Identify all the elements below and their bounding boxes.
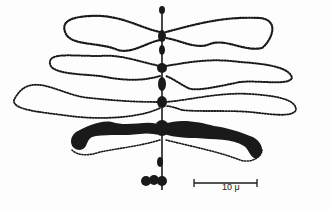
loop-top-right	[166, 18, 272, 49]
loop-low-left	[14, 85, 160, 118]
chromosome-drawing	[0, 0, 332, 210]
loop-top-left	[64, 16, 160, 51]
loop-mid-right	[166, 60, 292, 89]
loop-mid-left	[50, 55, 160, 79]
dense-loop-right	[164, 121, 262, 158]
dense-loop-left	[71, 122, 162, 150]
loop-low-right	[166, 94, 296, 115]
scale-bar-label: 10 μ	[222, 182, 240, 192]
figure-canvas: 10 μ	[0, 0, 332, 210]
